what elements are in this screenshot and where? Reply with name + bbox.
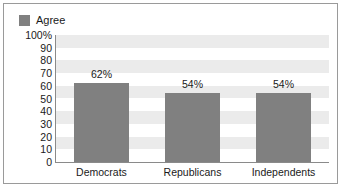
y-axis-tick-label: 60 bbox=[4, 81, 52, 91]
y-axis-tick-label: 70 bbox=[4, 68, 52, 78]
chart-legend: Agree bbox=[19, 12, 65, 28]
legend-swatch-agree bbox=[19, 15, 30, 26]
plot-band bbox=[56, 35, 329, 48]
chart-frame: Agree 100%9080706050403020100 62%Democra… bbox=[3, 3, 338, 184]
x-axis-category-label: Independents bbox=[234, 166, 334, 178]
y-axis-tick-label: 80 bbox=[4, 55, 52, 65]
x-axis-line bbox=[55, 162, 329, 163]
bar-democrats bbox=[74, 83, 129, 162]
plot-area bbox=[56, 35, 329, 162]
y-axis-tick-label: 90 bbox=[4, 43, 52, 53]
y-axis-tick-label: 100% bbox=[4, 30, 52, 40]
bar-value-label: 54% bbox=[254, 79, 314, 90]
bar-independents bbox=[256, 93, 311, 162]
bar-value-label: 62% bbox=[72, 69, 132, 80]
y-axis-tick-label: 40 bbox=[4, 106, 52, 116]
y-axis-tick-label: 0 bbox=[4, 157, 52, 167]
bar-value-label: 54% bbox=[163, 79, 223, 90]
legend-label-agree: Agree bbox=[36, 15, 65, 26]
y-axis-tick-label: 50 bbox=[4, 94, 52, 104]
y-axis-tick-label: 10 bbox=[4, 144, 52, 154]
bar-republicans bbox=[165, 93, 220, 162]
x-axis-category-label: Democrats bbox=[52, 166, 152, 178]
y-axis-tick-label: 30 bbox=[4, 119, 52, 129]
x-axis-category-label: Republicans bbox=[143, 166, 243, 178]
y-axis-tick-label: 20 bbox=[4, 132, 52, 142]
y-axis-labels: 100%9080706050403020100 bbox=[4, 29, 52, 169]
